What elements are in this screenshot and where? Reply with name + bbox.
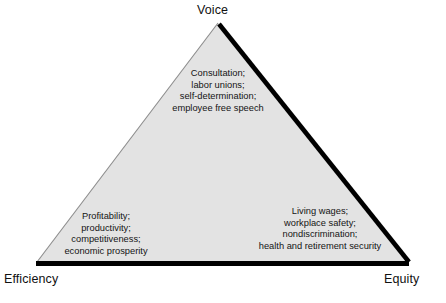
facet-voice-line-3: self-determination; — [172, 91, 263, 103]
facet-efficiency-line-1: Profitability; — [64, 211, 147, 223]
triangle-diagram: Voice Efficiency Equity Consultation; la… — [0, 0, 446, 303]
facet-efficiency-line-3: competitiveness; — [64, 234, 147, 246]
facet-voice-line-4: employee free speech — [172, 103, 263, 115]
corner-label-voice: Voice — [197, 3, 228, 17]
triangle-shape — [0, 0, 446, 303]
facet-text-voice: Consultation; labor unions; self-determi… — [172, 68, 263, 114]
facet-equity-line-2: workplace safety; — [259, 218, 381, 230]
facet-equity-line-3: nondiscrimination; — [259, 229, 381, 241]
facet-efficiency-line-2: productivity; — [64, 223, 147, 235]
facet-voice-line-1: Consultation; — [172, 68, 263, 80]
facet-text-efficiency: Profitability; productivity; competitive… — [64, 211, 147, 257]
facet-text-equity: Living wages; workplace safety; nondiscr… — [259, 206, 381, 252]
facet-efficiency-line-4: economic prosperity — [64, 246, 147, 258]
facet-equity-line-1: Living wages; — [259, 206, 381, 218]
corner-label-efficiency: Efficiency — [4, 272, 58, 286]
facet-voice-line-2: labor unions; — [172, 80, 263, 92]
facet-equity-line-4: health and retirement security — [259, 241, 381, 253]
corner-label-equity: Equity — [384, 272, 419, 286]
